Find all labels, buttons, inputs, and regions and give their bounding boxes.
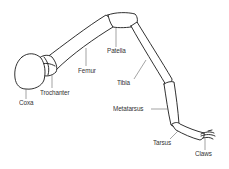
coxa-segment	[15, 54, 45, 89]
tarsus-segment	[172, 123, 204, 141]
tibia-segment	[131, 22, 172, 85]
label-metatarsus: Metatarsus	[113, 105, 143, 112]
label-trochanter: Trochanter	[40, 89, 69, 96]
label-femur: Femur	[78, 67, 96, 74]
label-claws: Claws	[195, 150, 212, 157]
label-tibia: Tibia	[117, 79, 130, 86]
tibia-leader	[134, 60, 146, 79]
label-patella: Patella	[107, 47, 126, 54]
label-coxa: Coxa	[19, 99, 33, 106]
label-tarsus: Tarsus	[153, 139, 171, 146]
metatarsus-segment	[164, 82, 179, 127]
leg-diagram	[0, 0, 229, 169]
femur-segment	[46, 15, 113, 70]
